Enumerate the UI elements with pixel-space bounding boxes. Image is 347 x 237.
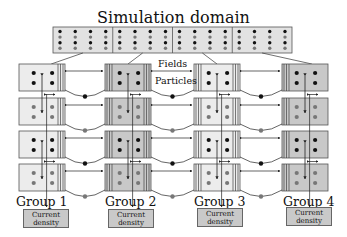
particle-dot <box>207 138 211 142</box>
particle-dot <box>313 181 317 185</box>
particles-label: Particles <box>155 75 197 86</box>
particle-dot <box>50 138 54 142</box>
domain-particle-dot <box>268 30 271 33</box>
domain-particle-dot <box>104 30 107 33</box>
domain-particle-dot <box>164 30 167 33</box>
domain-particle-dot <box>104 41 107 44</box>
domain-particle-dot <box>178 35 181 38</box>
particle-dot <box>136 148 140 152</box>
domain-particle-dot <box>118 35 121 38</box>
domain-particle-dot <box>238 30 241 33</box>
migrating-particle-dot <box>83 128 87 132</box>
particle-dot <box>118 138 122 142</box>
domain-particle-dot <box>283 30 286 33</box>
domain-particle-dot <box>133 47 136 50</box>
particle-dot <box>207 148 211 152</box>
particle-dot <box>118 181 122 185</box>
migrating-particle-dot <box>170 194 174 198</box>
domain-particle-dot <box>149 41 152 44</box>
migrating-particle-dot <box>83 161 87 165</box>
domain-particle-dot <box>164 47 167 50</box>
domain-particle-dot <box>238 35 241 38</box>
group-2-current-density-box: Current density <box>108 209 154 228</box>
domain-particle-dot <box>178 47 181 50</box>
particle-dot <box>313 105 317 109</box>
domain-particle-dot <box>104 47 107 50</box>
domain-particle-dot <box>268 41 271 44</box>
domain-particle-dot <box>283 47 286 50</box>
migrating-particle-dot <box>170 161 174 165</box>
current-density-line-1: Current <box>198 210 242 218</box>
domain-particle-dot <box>133 30 136 33</box>
domain-particle-dot <box>133 41 136 44</box>
migrating-particle-dot <box>259 94 263 98</box>
current-density-line-2: density <box>198 218 242 226</box>
domain-particle-dot <box>253 30 256 33</box>
particle-dot <box>225 105 229 109</box>
current-density-line-2: density <box>109 219 153 227</box>
domain-particle-dot <box>253 35 256 38</box>
domain-particle-dot <box>283 35 286 38</box>
particle-dot <box>225 81 229 85</box>
particle-dot <box>136 81 140 85</box>
particle-dot <box>32 81 36 85</box>
group-1-current-density-box: Current density <box>23 209 69 228</box>
particle-dot <box>295 138 299 142</box>
current-density-line-2: density <box>24 219 68 227</box>
domain-particle-dot <box>283 41 286 44</box>
particle-dot <box>295 105 299 109</box>
particle-dot <box>313 115 317 119</box>
domain-to-group-connector <box>51 53 83 64</box>
domain-particle-dot <box>149 47 152 50</box>
particle-dot <box>50 81 54 85</box>
domain-particle-dot <box>118 41 121 44</box>
particle-dot <box>207 81 211 85</box>
particle-dot <box>118 71 122 75</box>
particle-dot <box>313 71 317 75</box>
domain-to-group-connector <box>202 53 217 64</box>
migrating-particle-dot <box>170 128 174 132</box>
domain-particle-dot <box>193 35 196 38</box>
domain-particle-dot <box>89 35 92 38</box>
domain-to-group-connector <box>128 53 143 64</box>
group-2-label: Group 2 <box>105 194 156 209</box>
domain-particle-dot <box>193 41 196 44</box>
domain-particle-dot <box>118 47 121 50</box>
group-1-label: Group 1 <box>16 194 67 209</box>
particle-dot <box>118 81 122 85</box>
particle-dot <box>295 181 299 185</box>
domain-particle-dot <box>208 30 211 33</box>
domain-particle-dot <box>178 30 181 33</box>
particle-dot <box>136 171 140 175</box>
domain-particle-dot <box>268 47 271 50</box>
particle-dot <box>136 71 140 75</box>
particle-dot <box>118 148 122 152</box>
domain-particle-dot <box>118 30 121 33</box>
particle-dot <box>118 105 122 109</box>
domain-particle-dot <box>224 47 227 50</box>
diagram-title: Simulation domain <box>0 8 347 27</box>
domain-particle-dot <box>224 41 227 44</box>
particle-dot <box>225 148 229 152</box>
particle-dot <box>50 181 54 185</box>
particle-dot <box>295 148 299 152</box>
particle-dot <box>295 71 299 75</box>
domain-particle-dot <box>224 35 227 38</box>
domain-particle-dot <box>74 35 77 38</box>
particle-dot <box>207 181 211 185</box>
particle-dot <box>118 115 122 119</box>
domain-particle-dot <box>224 30 227 33</box>
particle-dot <box>50 148 54 152</box>
domain-to-group-connector <box>262 53 312 64</box>
particle-dot <box>207 115 211 119</box>
current-density-line-1: Current <box>24 211 68 219</box>
particle-dot <box>207 105 211 109</box>
domain-particle-dot <box>208 41 211 44</box>
domain-particle-dot <box>149 35 152 38</box>
group-3-current-density-box: Current density <box>197 208 243 227</box>
domain-particle-dot <box>268 35 271 38</box>
particle-dot <box>32 115 36 119</box>
domain-particle-dot <box>58 30 61 33</box>
particle-dot <box>313 81 317 85</box>
particle-dot <box>32 171 36 175</box>
